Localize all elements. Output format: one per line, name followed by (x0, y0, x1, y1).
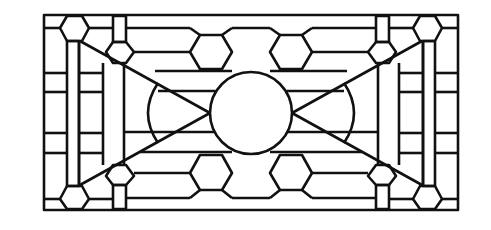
center-circle (210, 72, 292, 154)
left-half (44, 16, 232, 209)
stained-glass-diagram (0, 0, 491, 230)
pattern-drawing (0, 0, 491, 230)
outer-frame (44, 15, 458, 210)
